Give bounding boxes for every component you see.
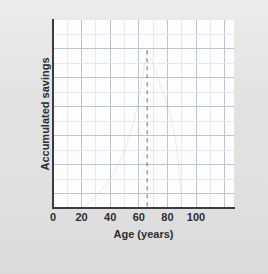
x-tick-label-20: 20 <box>67 211 97 224</box>
x-tick-label-80: 80 <box>152 211 182 224</box>
x-tick-label-0: 0 <box>38 211 68 224</box>
figure-container: 0 20 40 60 80 100 Age (years) Accumulate… <box>0 0 268 274</box>
x-tick-label-100: 100 <box>181 211 211 224</box>
y-axis-title: Accumulated savings <box>39 19 51 209</box>
x-tick-label-40: 40 <box>95 211 125 224</box>
x-axis-spine <box>52 207 235 209</box>
figure-inner: 0 20 40 60 80 100 Age (years) Accumulate… <box>0 0 268 274</box>
y-axis-spine <box>52 19 54 208</box>
x-axis-title: Age (years) <box>53 228 234 240</box>
plot-area <box>53 20 234 208</box>
x-tick-label-60: 60 <box>124 211 154 224</box>
chart-series-layer <box>53 20 234 208</box>
savings-curve <box>83 50 181 208</box>
